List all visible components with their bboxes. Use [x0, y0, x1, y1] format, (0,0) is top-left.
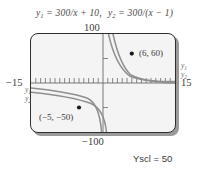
yscl-note: Yscl = 50: [133, 153, 172, 164]
y-max-label: 100: [84, 22, 100, 33]
curve-tag-subscript: 1: [28, 89, 31, 95]
x-min-label: −15: [6, 77, 22, 88]
y2-equation: = 300/(x − 1): [116, 8, 173, 18]
curve-tag-y2-right: y2: [181, 71, 187, 81]
curve-tag-subscript: 1: [184, 65, 187, 71]
point-marker-neg5-neg50: [77, 105, 81, 109]
curve-y1-left-branch: [31, 88, 102, 132]
point-label-neg5-neg50: (−5, −50): [39, 112, 73, 122]
graphing-calculator-figure: y1 = 300/x + 10,y2 = 300/(x − 1): [0, 0, 209, 172]
curve-tag-y2-left: y2: [25, 95, 31, 105]
y1-equation: = 300/x + 10,: [44, 8, 102, 18]
curve-tag-subscript: 2: [28, 98, 31, 104]
point-label-6-60: (6, 60): [139, 48, 163, 58]
curve-tag-subscript: 2: [184, 74, 187, 80]
point-marker-6-60: [130, 52, 134, 56]
curve-y2-right-branch: [113, 34, 175, 83]
equations-caption: y1 = 300/x + 10,y2 = 300/(x − 1): [0, 8, 209, 19]
y-min-label: −100: [82, 136, 104, 147]
